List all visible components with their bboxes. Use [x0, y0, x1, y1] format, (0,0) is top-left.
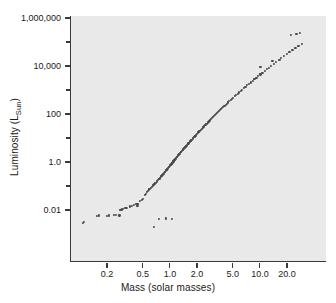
- x-tick-label: 0.5: [137, 269, 150, 279]
- data-point: [301, 43, 303, 45]
- x-tick-label: 1.0: [164, 269, 177, 279]
- data-point: [270, 65, 272, 67]
- data-point: [275, 61, 277, 63]
- data-point: [291, 49, 293, 51]
- data-point: [171, 218, 173, 220]
- y-tick-label: 0.01: [0, 205, 61, 215]
- data-point: [271, 60, 273, 62]
- x-tick-mark: [286, 263, 287, 268]
- data-point: [261, 72, 263, 74]
- data-point: [297, 45, 299, 47]
- data-point: [279, 58, 281, 60]
- x-tick-label: 0.2: [101, 269, 114, 279]
- data-point: [142, 198, 144, 200]
- data-point: [273, 63, 275, 65]
- data-point: [259, 73, 261, 75]
- data-point: [268, 66, 270, 68]
- data-point: [145, 193, 147, 195]
- data-point: [263, 70, 265, 72]
- x-tick-mark: [259, 263, 260, 268]
- data-point: [259, 65, 261, 67]
- data-point: [294, 47, 296, 49]
- x-tick-label: 20.0: [278, 269, 296, 279]
- plot-area: [70, 16, 326, 262]
- x-tick-mark: [232, 263, 233, 268]
- x-tick-mark: [106, 263, 107, 268]
- y-tick-label: 10,000: [0, 61, 61, 71]
- y-tick-label: 1,000,000: [0, 13, 61, 23]
- data-point: [108, 214, 110, 216]
- x-axis-title: Mass (solar masses): [0, 282, 336, 293]
- x-tick-mark: [169, 263, 170, 268]
- data-point: [153, 226, 155, 228]
- data-point: [266, 68, 268, 70]
- x-tick-mark: [142, 263, 143, 268]
- data-point: [118, 214, 120, 216]
- x-tick-label: 5.0: [227, 269, 240, 279]
- data-point: [165, 217, 167, 219]
- data-point: [83, 221, 85, 223]
- data-point: [136, 205, 138, 207]
- data-point: [158, 218, 160, 220]
- x-tick-label: 10.0: [251, 269, 269, 279]
- mass-luminosity-scatter-figure: Luminosity (LSun) Mass (solar masses) 0.…: [0, 0, 336, 303]
- data-point: [295, 32, 297, 34]
- x-tick-label: 2.0: [191, 269, 204, 279]
- data-point: [126, 207, 128, 209]
- data-point: [115, 214, 117, 216]
- data-point: [299, 32, 301, 34]
- data-point: [283, 55, 285, 57]
- data-point: [98, 214, 100, 216]
- data-point: [286, 53, 288, 55]
- x-tick-mark: [196, 263, 197, 268]
- y-tick-label: 1.0: [0, 157, 61, 167]
- data-point: [288, 51, 290, 53]
- y-tick-label: 100: [0, 109, 61, 119]
- y-axis-title: Luminosity (LSun): [9, 77, 23, 197]
- data-point: [290, 34, 292, 36]
